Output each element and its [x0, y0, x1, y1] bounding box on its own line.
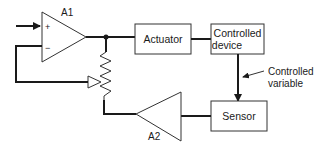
wiper-to-a1-minus-wire: [16, 46, 88, 82]
controlled-device-label-line1: Controlled: [214, 27, 262, 39]
a1-plus-sign: +: [45, 22, 50, 32]
amplifier-a2: A2: [136, 92, 181, 142]
control-loop-diagram: A1 + − Actuator Controlled device Contro…: [0, 0, 328, 149]
amplifier-a2-label: A2: [148, 131, 161, 142]
potentiometer-resistor: [100, 52, 111, 100]
actuator-block: Actuator: [135, 24, 191, 54]
controlled-device-label-line2: device: [212, 39, 243, 51]
controlled-variable-label-line1: Controlled: [268, 66, 314, 77]
sensor-label: Sensor: [222, 110, 256, 122]
sensor-block: Sensor: [211, 101, 267, 131]
amplifier-a1: A1 + −: [42, 7, 86, 62]
potentiometer-wiper-icon: [88, 76, 101, 88]
controlled-variable-pointer: [243, 71, 264, 77]
controlled-device-block: Controlled device: [211, 24, 264, 54]
a2-to-pot-wire: [104, 100, 136, 114]
amplifier-a1-label: A1: [61, 7, 74, 18]
a1-minus-sign: −: [45, 43, 50, 53]
actuator-label: Actuator: [143, 33, 183, 45]
controlled-variable-label-line2: variable: [268, 78, 303, 89]
